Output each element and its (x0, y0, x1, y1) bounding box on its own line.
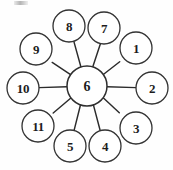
spoke-hub-to-5 (74, 105, 80, 130)
spoke-hub-to-1 (103, 62, 119, 75)
spoke-hub-to-7 (93, 44, 101, 67)
wheel-graph-diagram: 1 2 3 4 5 7 (0, 0, 173, 170)
node-8-label: 8 (66, 19, 73, 34)
spoke-hub-to-3 (104, 98, 120, 113)
spoke-hub-to-10 (39, 87, 67, 88)
hub-label: 6 (84, 79, 91, 94)
node-7[interactable]: 7 (88, 12, 120, 44)
node-11[interactable]: 11 (22, 110, 54, 142)
spoke-hub-to-9 (52, 62, 70, 74)
node-group: 1 2 3 4 5 7 (7, 10, 168, 162)
node-9-label: 9 (33, 42, 40, 57)
node-11-label: 11 (32, 119, 44, 134)
spoke-hub-to-4 (93, 105, 100, 130)
spoke-hub-to-2 (107, 87, 136, 88)
node-2-label: 2 (149, 81, 155, 96)
spoke-hub-to-11 (53, 98, 71, 113)
node-5-label: 5 (67, 139, 74, 154)
node-10[interactable]: 10 (7, 72, 39, 104)
node-2[interactable]: 2 (136, 72, 168, 104)
node-hub-6[interactable]: 6 (67, 66, 107, 106)
node-10-label: 10 (17, 81, 29, 96)
diagram-canvas: 1 2 3 4 5 7 (0, 0, 173, 170)
node-3[interactable]: 3 (120, 112, 152, 144)
node-9[interactable]: 9 (20, 33, 52, 65)
spoke-hub-to-8 (74, 42, 81, 67)
node-8[interactable]: 8 (53, 10, 85, 42)
node-1-label: 1 (133, 41, 139, 56)
node-1[interactable]: 1 (120, 32, 152, 64)
node-4[interactable]: 4 (89, 130, 121, 162)
node-7-label: 7 (101, 21, 108, 36)
node-3-label: 3 (133, 121, 140, 136)
node-4-label: 4 (102, 139, 109, 154)
node-5[interactable]: 5 (54, 130, 86, 162)
